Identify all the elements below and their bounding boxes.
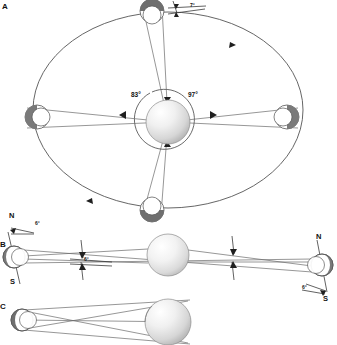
center-arrow-up — [79, 263, 86, 270]
center-tick-marks — [70, 240, 112, 280]
south-label-right: S — [323, 295, 328, 303]
angle-label-83: 83° — [131, 92, 141, 99]
panel-c — [11, 299, 191, 345]
panel-letter-a: A — [2, 3, 8, 11]
sun-body-panel-a — [146, 100, 190, 144]
astronomy-diagram — [0, 0, 337, 345]
body-left-panel-b — [3, 232, 29, 284]
right-center-arrow-down — [230, 249, 237, 256]
body-right-panel-b — [308, 240, 334, 292]
tilt-arrow-left — [10, 228, 16, 234]
north-label-right: N — [316, 233, 321, 241]
angle-label-7: 7° — [190, 3, 195, 8]
tilt-angle-right: 6° — [302, 285, 307, 290]
orbit-arrow-lower-left — [86, 198, 93, 204]
body-top — [140, 0, 164, 24]
panel-b — [3, 228, 333, 296]
orbit-arrow-upper-right — [229, 42, 236, 48]
angle-label-97: 97° — [188, 92, 198, 99]
body-bottom — [140, 197, 164, 222]
body-left — [25, 105, 50, 129]
body-right — [274, 105, 299, 129]
south-label-left: S — [10, 278, 15, 286]
right-center-tick-marks — [232, 236, 234, 280]
tilt-angle-left: 6° — [35, 221, 40, 226]
panel-letter-c: C — [0, 303, 6, 311]
panel-a — [25, 0, 303, 222]
panel-letter-b: B — [0, 241, 6, 249]
center-angle-label: 6° — [84, 257, 89, 262]
sun-body-panel-b — [147, 234, 189, 276]
north-label-left: N — [9, 212, 14, 220]
